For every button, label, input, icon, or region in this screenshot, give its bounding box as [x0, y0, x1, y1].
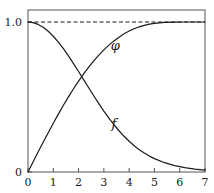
y-tick-label: 1.0 — [2, 17, 22, 28]
plot-canvas — [0, 0, 214, 193]
curve-label: φ — [111, 39, 120, 52]
x-tick-label: 0 — [25, 177, 32, 188]
y-tick-label: 0 — [2, 167, 22, 178]
x-tick-label: 1 — [50, 177, 57, 188]
x-tick-label: 6 — [176, 177, 183, 188]
curve-label: f — [112, 116, 117, 129]
x-tick-label: 2 — [75, 177, 82, 188]
x-tick-label: 7 — [202, 177, 209, 188]
x-tick-label: 4 — [126, 177, 133, 188]
chart-figure: 0123456701.0φf — [0, 0, 214, 193]
x-tick-label: 3 — [100, 177, 107, 188]
plot-frame — [28, 10, 205, 172]
x-tick-label: 5 — [151, 177, 158, 188]
